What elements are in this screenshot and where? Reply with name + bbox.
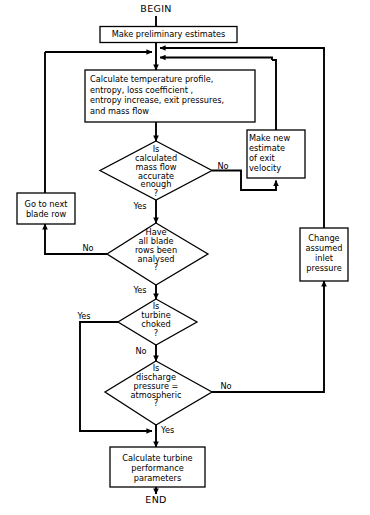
process-calculate-label: Calculate temperature profile, entropy, …	[90, 74, 252, 116]
decision-massflow-label: Is calculated mass flow accurate enough …	[116, 145, 196, 198]
edge-label-discharge-yes: Yes	[161, 426, 185, 435]
process-preliminary-label: Make preliminary estimates	[100, 30, 237, 39]
edge-label-bladerows-no: No	[78, 244, 98, 253]
edge-label-choked-yes: Yes	[72, 312, 96, 321]
terminal-begin: BEGIN	[116, 4, 196, 14]
decision-choked-label: Is turbine choked ?	[121, 302, 191, 337]
edge-label-massflow-no: No	[213, 162, 233, 171]
edge-inlet-return-into-main	[160, 48, 324, 50]
edge-label-choked-no: No	[130, 347, 152, 356]
flowchart-canvas: BEGIN END Make preliminary estimates Cal…	[0, 0, 370, 515]
process-newestimate-label: Make new estimate of exit velocity	[249, 133, 303, 173]
edge-label-bladerows-yes: Yes	[128, 286, 152, 295]
edge-label-massflow-yes: Yes	[128, 202, 152, 211]
edge-label-discharge-no: No	[216, 382, 236, 391]
edge-velocity-return-into-main	[160, 58, 272, 61]
edge-newestimate-to-return	[272, 60, 276, 130]
decision-bladerows-label: Have all blade rows been analysed ?	[116, 228, 196, 272]
decision-discharge-label: Is discharge pressure = atmospheric ?	[113, 364, 199, 408]
process-changeinlet-label: Change assumed inlet pressure	[300, 233, 348, 273]
process-nextblade-label: Go to next blade row	[18, 199, 74, 219]
process-performance-label: Calculate turbine performance parameters	[110, 453, 205, 483]
edge-discharge-no-to-changeinlet	[212, 281, 324, 392]
terminal-end: END	[116, 495, 196, 505]
